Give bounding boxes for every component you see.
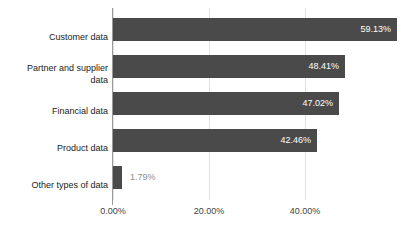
- bar-product-data[interactable]: 42.46%: [113, 129, 317, 152]
- category-label-line: data: [90, 75, 108, 85]
- xtick-label-40: 40.00%: [290, 206, 321, 216]
- bar-other-types-of-data[interactable]: [113, 166, 122, 189]
- category-label-financial-data: Financial data: [0, 106, 108, 118]
- category-label-other-types-of-data: Other types of data: [0, 180, 108, 192]
- bar-value-label: 47.02%: [302, 92, 339, 115]
- bar-row: 47.02%: [113, 92, 409, 115]
- bar-financial-data[interactable]: 47.02%: [113, 92, 339, 115]
- category-label-line: Customer data: [49, 32, 108, 42]
- category-label-line: Product data: [57, 143, 108, 153]
- xtick-label-0: 0.00%: [100, 206, 126, 216]
- bar-value-label: 42.46%: [280, 129, 317, 152]
- category-label-group: Customer data Partner and supplier data …: [0, 8, 108, 200]
- category-label-line: Other types of data: [31, 180, 108, 190]
- category-label-line: Partner and supplier: [27, 63, 108, 73]
- category-label-customer-data: Customer data: [0, 32, 108, 44]
- bar-customer-data[interactable]: 59.13%: [113, 18, 397, 41]
- bar-value-label: 1.79%: [122, 166, 156, 189]
- category-label-partner-and-supplier-data: Partner and supplier data: [0, 63, 108, 86]
- x-axis-tick-zero: [112, 200, 113, 205]
- xtick-label-20: 20.00%: [194, 206, 225, 216]
- bar-row: 59.13%: [113, 18, 409, 41]
- bar-partner-and-supplier-data[interactable]: 48.41%: [113, 55, 345, 78]
- bar-row: 42.46%: [113, 129, 409, 152]
- bar-row: 1.79%: [113, 166, 409, 189]
- bar-chart: Customer data Partner and supplier data …: [0, 0, 415, 231]
- bar-row: 48.41%: [113, 55, 409, 78]
- category-label-product-data: Product data: [0, 143, 108, 155]
- bar-value-label: 48.41%: [308, 55, 345, 78]
- category-label-line: Financial data: [52, 106, 108, 116]
- bar-value-label: 59.13%: [360, 18, 397, 41]
